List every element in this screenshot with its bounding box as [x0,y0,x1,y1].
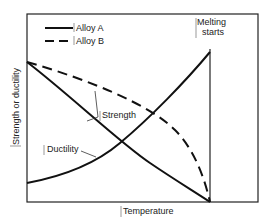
y-axis-label: Strength or ductility [11,67,21,145]
legend-alloy-a: Alloy A [76,23,104,33]
chart: Alloy A Alloy B Melting starts Strength … [0,0,270,223]
melting-label-1: Melting [197,17,226,27]
ductility-leader [81,151,96,157]
ductility-label: Ductility [47,144,79,154]
melting-label-2: starts [202,27,225,37]
legend-alloy-b: Alloy B [76,36,104,46]
x-axis-label: Temperature [123,206,174,216]
strength-label: Strength [102,110,136,120]
